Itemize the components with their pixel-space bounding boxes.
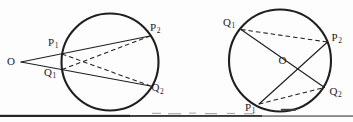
bottom-rule — [0, 115, 353, 117]
label-subscript: 1 — [52, 71, 56, 80]
scanned-geometry-figure: OP1Q1P2Q2Q1P2OQ2P1 — [0, 0, 353, 122]
label-subscript: 1 — [55, 41, 59, 50]
point-label-P1-fig1: P1 — [48, 37, 58, 52]
label-letter: Q — [44, 66, 52, 78]
point-label-Q1-fig2: Q1 — [223, 17, 235, 32]
bottom-rule-segment — [130, 115, 262, 117]
label-letter: Q — [223, 16, 231, 28]
scan-noise-dash — [168, 113, 181, 114]
dashed-line-P1-Q2 — [62, 54, 151, 86]
solid-line-O-Q2 — [21, 62, 151, 86]
label-letter: P — [245, 101, 251, 113]
dashed-line-Q1-P2 — [241, 30, 328, 43]
label-letter: P — [150, 21, 156, 33]
scan-noise-dash — [152, 113, 161, 114]
dashed-line-Q1-P2 — [62, 36, 150, 70]
point-label-P2-fig2: P2 — [332, 32, 342, 47]
solid-line-O-P2 — [21, 36, 150, 62]
scan-noise-dash — [281, 109, 296, 111]
label-letter: Q — [152, 81, 160, 93]
label-letter: Q — [330, 85, 338, 97]
label-subscript: 2 — [338, 90, 342, 99]
point-label-Q1-fig1: Q1 — [44, 67, 56, 82]
circle-outline — [62, 14, 159, 111]
label-subscript: 2 — [157, 26, 161, 35]
label-letter: P — [48, 36, 54, 48]
circle-with-external-point-O-secants — [21, 14, 159, 111]
point-label-O-fig1: O — [7, 56, 15, 71]
point-label-Q2-fig2: Q2 — [330, 86, 342, 101]
bottom-rule-segment — [0, 115, 130, 117]
label-letter: O — [7, 55, 15, 67]
label-subscript: 1 — [252, 106, 256, 115]
scan-noise-dash — [189, 113, 196, 114]
point-label-P1-fig2: P1 — [245, 102, 255, 117]
scan-noise-dash — [205, 113, 217, 114]
scan-noise-dash — [227, 113, 235, 114]
label-subscript: 2 — [160, 87, 164, 96]
point-label-O-fig2: O — [279, 55, 287, 70]
label-subscript: 1 — [231, 21, 235, 30]
label-letter: P — [332, 31, 338, 43]
diagram-svg — [0, 0, 353, 122]
label-letter: O — [279, 54, 287, 66]
label-subscript: 2 — [338, 36, 342, 45]
point-label-P2-fig1: P2 — [150, 22, 160, 37]
point-label-Q2-fig1: Q2 — [152, 82, 164, 97]
